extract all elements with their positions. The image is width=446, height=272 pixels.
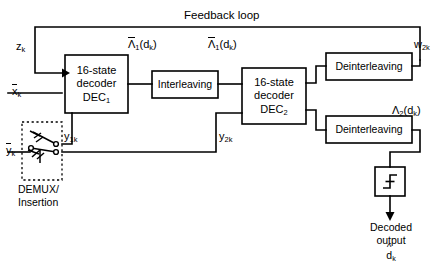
signal-label-yk: yk [6,145,15,157]
demux-caption: DEMUX/ Insertion [18,184,59,208]
signal-label-xk: xk [12,86,21,98]
signal-label-zk: zk [16,41,25,53]
demux-caption-line2: Insertion [18,197,58,208]
dec2-line1: 16-state [254,76,294,89]
threshold-decision-icon [383,175,397,188]
dec1-line3: DEC1 [83,91,110,105]
arrow-decoded-output [386,212,395,221]
deinterleaving-top-output [412,60,420,66]
dec1-line2: decoder [77,77,117,90]
dec2-line3: DEC2 [260,103,287,117]
dec1-block-label: 16-state decoder DEC1 [65,55,128,113]
demux-caption-line1: DEMUX/ [18,184,59,195]
dec2-block-label: 16-state decoder DEC2 [242,68,306,124]
signal-label-y2k: y2k [219,131,232,143]
dec2-to-deinterleaving-top [306,66,326,83]
decoded-output-caption: Decoded output dk [360,222,422,263]
feedback-loop-label: Feedback loop [184,9,259,21]
demux-contact-upper [54,142,59,147]
signal-label-w2k: w2k [414,39,430,51]
deinterleaving-bottom-block-label: Deinterleaving [326,116,412,143]
interleaving-block-label: Interleaving [152,71,218,98]
dec2-to-deinterleaving-bottom [306,110,326,130]
decoded-output-symbol: dk [386,250,395,263]
signal-label-y1k: y1k [64,131,77,143]
dec1-line1: 16-state [77,64,117,77]
signal-label-lambda1-interleaved: Λ1(dk) [208,39,237,51]
demux-switch-upper [30,131,56,144]
signal-label-lambda1: Λ1(dk) [128,39,157,51]
deinterleaving-top-block-label: Deinterleaving [326,53,412,80]
y2k-line [62,113,242,152]
dec2-line2: decoder [254,89,294,102]
turbo-decoder-diagram: Feedback loop zk xk y1k yk y2k w2k Λ1(dk… [0,0,446,272]
decoded-output-line1: Decoded [370,222,412,233]
